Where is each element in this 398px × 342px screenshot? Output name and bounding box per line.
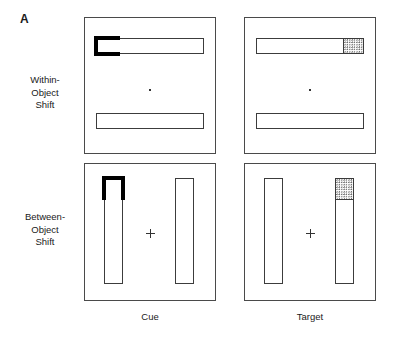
column-label-cue: Cue [80,311,220,323]
stimulus-panel-between-object-target [244,163,376,301]
target-square-icon [343,38,364,54]
cue-bracket-icon [102,176,125,200]
figure-panel-letter-a: A [20,12,29,26]
row-label-within-object-shift: Within- Object Shift [6,74,84,112]
row-label-between-line2: Object [6,224,84,237]
row-label-between-object-shift: Between- Object Shift [6,211,84,249]
target-square-icon [335,178,354,200]
stimulus-panel-between-object-cue [84,163,216,301]
fixation-dot-icon [309,89,311,91]
row-label-within-line2: Object [6,87,84,100]
horizontal-object-rectangle-bottom [96,113,204,129]
vertical-object-rectangle-left [264,178,283,284]
stimulus-panel-within-object-target [244,17,376,154]
stimulus-panel-within-object-cue [84,17,216,154]
figure-panel-a: A Within- Object Shift Between- Object S… [0,0,398,342]
row-label-between-line1: Between- [6,211,84,224]
fixation-dot-icon [149,89,151,91]
fixation-cross-icon [306,229,315,238]
row-label-between-line3: Shift [6,236,84,249]
vertical-object-rectangle-right [175,178,194,284]
row-label-within-line1: Within- [6,74,84,87]
column-label-target: Target [240,311,380,323]
cue-bracket-icon [94,36,120,56]
fixation-cross-icon [146,229,155,238]
horizontal-object-rectangle-bottom [256,113,364,129]
row-label-within-line3: Shift [6,99,84,112]
